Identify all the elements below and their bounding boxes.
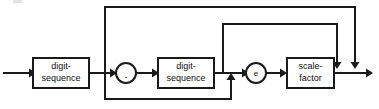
digit-sequence-fraction-label-line1: digit- (176, 61, 196, 71)
node-digit-sequence-fraction[interactable]: digit- sequence (158, 58, 214, 88)
arrow-into-scale-factor (280, 69, 287, 78)
node-scale-factor[interactable]: scale- factor (287, 58, 334, 88)
node-exponent-marker[interactable]: e (246, 63, 266, 83)
scale-factor-label-line1: scale- (298, 61, 322, 71)
railroad-diagram: digit- sequence . digit- sequence e scal… (0, 0, 379, 109)
arrow-outer-bypass-down (351, 62, 360, 69)
scale-factor-label-line2: factor (299, 73, 322, 83)
decimal-point-label: . (124, 68, 127, 80)
digit-sequence-integer-label-line1: digit- (51, 61, 71, 71)
node-digit-sequence-integer[interactable]: digit- sequence (33, 58, 89, 88)
exponent-marker-label: e (254, 69, 259, 78)
scan-artifact (13, 0, 22, 3)
node-decimal-point[interactable]: . (116, 63, 136, 83)
arrow-lower-bypass-up (227, 73, 236, 80)
diagram-canvas: digit- sequence . digit- sequence e scal… (0, 0, 379, 109)
arrow-output (366, 69, 373, 78)
digit-sequence-fraction-label-line2: sequence (166, 73, 205, 83)
digit-sequence-integer-label-line2: sequence (41, 73, 80, 83)
